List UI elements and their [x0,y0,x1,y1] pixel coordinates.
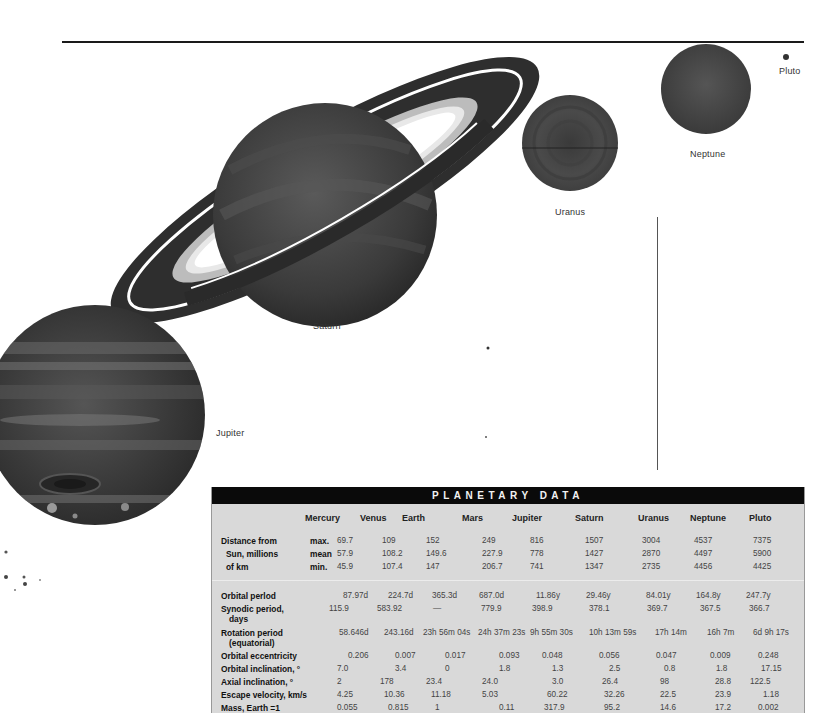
cell: 2735 [642,562,660,571]
cell: 4456 [694,562,712,571]
cell: 369.7 [647,604,668,613]
cell: 28.8 [715,677,731,686]
cell: 5900 [753,549,771,558]
cell: 206.7 [482,562,503,571]
cell: 741 [530,562,544,571]
sub-label: max. [310,536,329,546]
label-pluto: Pluto [779,66,801,76]
cell: 1347 [585,562,603,571]
row-label: Orbital inclination, ° [221,664,300,674]
cell: 0.056 [599,651,620,660]
cell: 58.646d [339,628,369,637]
cell: 149.6 [426,549,447,558]
cell: 3004 [642,536,660,545]
cell: 0.093 [499,651,520,660]
cell: 816 [530,536,544,545]
col-mars: Mars [462,513,483,523]
cell: 0.8 [664,664,675,673]
cell: 3.4 [395,664,406,673]
cell: 87.97d [343,591,368,600]
cell: 95.2 [604,703,620,712]
cell: 178 [380,677,394,686]
col-saturn: Saturn [575,513,604,523]
cell: 398.9 [532,604,553,613]
label-uranus: Uranus [555,207,585,217]
cell: 687.0d [479,591,504,600]
cell: 0.009 [710,651,731,660]
cell: 4497 [694,549,712,558]
col-pluto: Pluto [749,513,772,523]
cell: 10.36 [384,690,405,699]
cell: 147 [426,562,440,571]
row-label: Orbital eccentricity [221,651,297,661]
cell: 17h 14m [655,628,687,637]
cell: 2.5 [609,664,620,673]
cell: 2 [337,677,342,686]
cell: 24h 37m 23s [478,628,525,637]
cell: 26.4 [602,677,618,686]
cell: 24.0 [482,677,498,686]
cell: 0.055 [337,703,358,712]
cell: 0.248 [758,651,779,660]
cell: 0.048 [542,651,563,660]
cell: 69.7 [337,536,353,545]
row-label: Escape velocity, km/s [221,690,307,700]
cell: 4.25 [337,690,353,699]
row-separator [212,579,804,582]
cell: 2870 [642,549,660,558]
row-label: Orbital perlod [221,591,276,601]
label-saturn: Saturn [313,321,341,331]
col-venus: Venus [360,513,387,523]
cell: 378.1 [589,604,610,613]
cell: 11.18 [431,690,451,699]
cell: 224.7d [388,591,413,600]
planetary-data-table: PLANETARY DATA Mercury Venus Earth Mars … [211,487,805,713]
col-mercury: Mercury [305,513,340,523]
cell: 115.9 [329,604,349,613]
label-jupiter: Jupiter [216,428,244,438]
cell: 98 [660,677,669,686]
row-label-line2: (equatorial) [229,638,275,648]
col-jupiter: Jupiter [512,513,542,523]
cell: 14.6 [660,703,676,712]
cell: 1.18 [763,690,779,699]
cell: 7375 [753,536,771,545]
cell: 0.007 [395,651,416,660]
row-label-line2: days [229,614,248,624]
cell: 243.16d [384,628,414,637]
cell: 1507 [585,536,603,545]
cell: 583.92 [377,604,402,613]
row-label: Rotation period [221,628,283,638]
row-label: Sun, millions [226,549,278,559]
row-label: Mass, Earth =1 [221,703,280,713]
cell: — [433,604,441,613]
cell: 7.0 [337,664,348,673]
sub-label: min. [310,562,327,572]
cell: 11.86y [536,591,560,600]
cell: 0.002 [758,703,779,712]
cell: 23.4 [426,677,442,686]
cell: 1 [435,703,440,712]
cell: 5.03 [482,690,498,699]
cell: 16h 7m [707,628,734,637]
cell: 10h 13m 59s [589,628,636,637]
row-label: of km [226,562,248,572]
cell: 23.9 [715,690,731,699]
col-uranus: Uranus [638,513,669,523]
col-earth: Earth [402,513,425,523]
cell: 249 [482,536,496,545]
sub-label: mean [310,549,332,559]
cell: 247.7y [746,591,771,600]
cell: 122.5 [750,677,771,686]
cell: 109 [382,536,396,545]
cell: 366.7 [749,604,770,613]
cell: 227.9 [482,549,503,558]
cell: 60.22 [547,690,568,699]
cell: 84.01y [646,591,671,600]
cell: 32.26 [604,690,625,699]
cell: 317.9 [544,703,565,712]
cell: 164.8y [696,591,721,600]
cell: 1.8 [716,664,727,673]
cell: 45.9 [337,562,353,571]
cell: 57.9 [337,549,353,558]
